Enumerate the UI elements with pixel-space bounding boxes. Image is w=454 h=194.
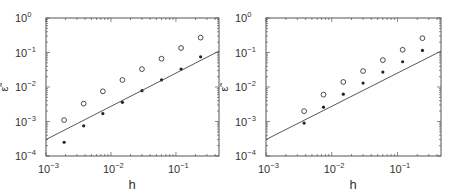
filled-dot-marker	[199, 55, 202, 58]
plot-frame	[46, 18, 219, 156]
open-circle-marker	[159, 56, 164, 61]
left-plot-panel: 10−310−210−110010−110−210−310−4hε̃	[0, 0, 227, 194]
y-tick-label: 100	[235, 10, 251, 24]
y-tick-label: 10−3	[15, 114, 36, 128]
open-circle-marker	[100, 89, 105, 94]
x-axis-label: h	[350, 177, 357, 192]
x-axis-label: h	[129, 177, 136, 192]
filled-dot-marker	[401, 60, 404, 63]
filled-dot-marker	[63, 141, 66, 144]
plot-frame	[266, 18, 441, 156]
filled-dot-marker	[322, 106, 325, 109]
filled-dot-marker	[381, 71, 384, 74]
reference-line	[46, 51, 219, 139]
filled-dot-marker	[361, 81, 364, 84]
y-tick-label: 10−3	[235, 114, 256, 128]
left-plot: 10−310−210−110010−110−210−310−4hε̃	[0, 0, 227, 194]
open-circle-marker	[140, 67, 145, 72]
y-tick-label: 100	[15, 10, 31, 24]
y-tick-label: 10−4	[15, 148, 36, 162]
open-circle-marker	[62, 118, 67, 123]
filled-dot-marker	[342, 93, 345, 96]
y-tick-label: 10−4	[235, 148, 256, 162]
open-circle-marker	[321, 92, 326, 97]
filled-dot-marker	[101, 112, 104, 115]
y-tick-label: 10−1	[15, 45, 36, 59]
open-circle-marker	[120, 78, 125, 83]
open-circle-marker	[179, 46, 184, 51]
x-tick-label: 10−1	[389, 161, 410, 175]
open-circle-marker	[361, 69, 366, 74]
filled-dot-marker	[303, 121, 306, 124]
filled-dot-marker	[82, 124, 85, 127]
reference-line	[266, 51, 441, 139]
x-tick-label: 10−2	[103, 161, 124, 175]
y-axis-label: ε̃	[0, 83, 10, 92]
filled-dot-marker	[421, 49, 424, 52]
y-tick-label: 10−1	[235, 45, 256, 59]
right-plot-panel: 10−310−210−110010−110−210−310−4hε̃	[220, 0, 447, 194]
open-circle-marker	[198, 35, 203, 40]
y-axis-label: ε̃	[220, 83, 230, 92]
x-tick-label: 10−2	[324, 161, 345, 175]
x-tick-label: 10−1	[168, 161, 189, 175]
x-tick-label: 10−3	[38, 161, 59, 175]
open-circle-marker	[81, 101, 86, 106]
right-plot: 10−310−210−110010−110−210−310−4hε̃	[220, 0, 454, 194]
open-circle-marker	[341, 80, 346, 85]
open-circle-marker	[302, 109, 307, 114]
open-circle-marker	[420, 36, 425, 41]
open-circle-marker	[380, 58, 385, 63]
y-tick-label: 10−2	[15, 79, 36, 93]
y-tick-label: 10−2	[235, 79, 256, 93]
open-circle-marker	[400, 47, 405, 52]
x-tick-label: 10−3	[258, 161, 279, 175]
